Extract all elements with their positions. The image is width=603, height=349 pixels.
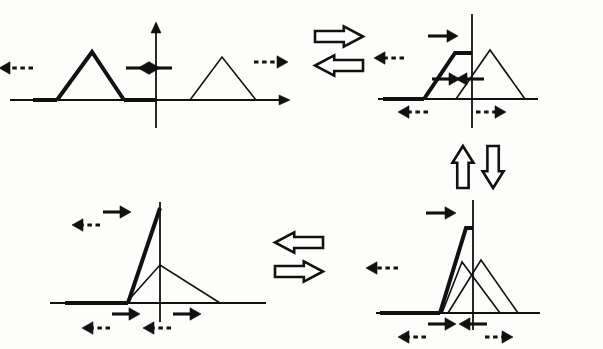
arrow-br-4 — [398, 331, 426, 343]
arrow-bl-4-head — [82, 322, 93, 334]
arrow-tl-4 — [254, 56, 288, 68]
pulse-thin-right — [190, 57, 256, 100]
arrow-bl-5-head — [190, 308, 201, 320]
pulse-thin-twin-b — [448, 260, 518, 313]
transition-right-svg — [452, 146, 504, 188]
pulse-thin-twin-a — [442, 262, 500, 313]
transition-bottom-arrow-right — [275, 261, 323, 281]
arrow-tl-4-head — [277, 56, 288, 68]
transition-bottom-arrow-left-shape — [275, 232, 323, 252]
arrow-br-1 — [426, 207, 456, 219]
panel-bottom-right — [370, 190, 603, 349]
pulse-bold-peak — [128, 208, 160, 303]
panel-top-left — [0, 0, 300, 140]
transition-top-arrow-left-shape — [315, 55, 363, 75]
right-vertical-double-arrow — [452, 146, 504, 188]
arrow-bl-5 — [173, 308, 201, 320]
bottom-horizontal-double-arrow — [275, 232, 323, 282]
arrow-tl-3-head — [138, 62, 149, 74]
transition-top-arrow-right-shape — [315, 26, 363, 46]
arrow-tl-1 — [0, 62, 33, 74]
full-overlap-peak-svg — [40, 190, 300, 349]
arrow-br-2 — [366, 262, 398, 274]
top-horizontal-double-arrow — [315, 26, 363, 76]
arrow-bl-1-head — [120, 206, 131, 218]
before-collision-svg — [0, 0, 300, 140]
arrow-tr-6 — [476, 106, 506, 118]
arrow-tr-4-head — [456, 73, 467, 85]
arrow-tr-1-head — [447, 30, 458, 42]
arrow-tr-5-head — [398, 106, 409, 118]
transition-bottom-arrow-left — [275, 232, 323, 252]
arrow-tr-2-head — [374, 52, 385, 64]
arrow-br-4-head — [398, 331, 409, 343]
arrow-bl-6 — [143, 322, 171, 334]
panel-top-left-y-axis-arrowhead — [151, 22, 161, 33]
partial-overlap-twin-peaks-svg — [370, 190, 603, 349]
arrow-br-2-head — [366, 262, 377, 274]
arrow-bl-4 — [82, 322, 110, 334]
transition-top-svg — [315, 26, 363, 76]
transition-right-arrow-up — [452, 146, 473, 188]
arrow-br-6-head — [502, 331, 513, 343]
arrow-bl-6-head — [143, 322, 154, 334]
transition-bottom-arrow-right-shape — [275, 261, 323, 281]
arrow-br-3-head — [445, 318, 456, 330]
arrow-tl-1-head — [0, 62, 10, 74]
arrow-br-3 — [428, 318, 456, 330]
arrow-bl-2-head — [72, 219, 83, 231]
transition-bottom-svg — [275, 232, 323, 282]
diagram-canvas — [0, 0, 603, 349]
arrow-tr-6-head — [495, 106, 506, 118]
arrow-bl-1 — [103, 206, 131, 218]
pulse-bold-left — [57, 52, 124, 100]
panel-bottom-left-motion-arrows — [72, 206, 201, 334]
arrow-tr-1 — [428, 30, 458, 42]
arrow-br-5-head — [459, 318, 470, 330]
transition-top-arrow-left — [315, 55, 363, 75]
transition-top-arrow-right — [315, 26, 363, 46]
panel-bottom-left — [40, 190, 300, 349]
arrow-tr-4 — [456, 73, 484, 85]
partial-overlap-symmetric-svg — [370, 0, 603, 140]
arrow-tl-3 — [138, 62, 172, 74]
panel-top-right — [370, 0, 603, 140]
arrow-bl-2 — [72, 219, 100, 231]
arrow-tr-2 — [374, 52, 404, 64]
arrow-br-1-head — [445, 207, 456, 219]
arrow-tr-5 — [398, 106, 428, 118]
transition-right-arrow-up-shape — [452, 146, 473, 188]
arrow-bl-3-head — [129, 308, 140, 320]
transition-right-arrow-down-shape — [483, 146, 504, 188]
panel-top-left-x-axis-arrowhead — [279, 95, 290, 105]
arrow-br-6 — [485, 331, 513, 343]
panel-top-left-motion-arrows — [0, 56, 288, 74]
transition-right-arrow-down — [483, 146, 504, 188]
arrow-bl-3 — [112, 308, 140, 320]
